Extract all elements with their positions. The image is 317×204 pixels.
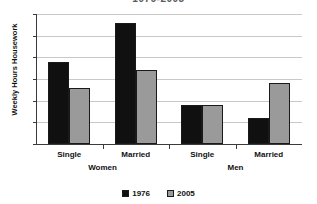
bar bbox=[202, 105, 223, 144]
gridline bbox=[36, 14, 302, 15]
bar-chart: 1976-2005 Weekly Hours Housework 0510152… bbox=[0, 0, 317, 204]
x-axis-separator bbox=[169, 145, 170, 149]
legend-swatch-icon bbox=[122, 190, 129, 197]
legend-label: 1976 bbox=[132, 189, 150, 198]
x-category-label: Single bbox=[167, 150, 237, 159]
x-axis-line bbox=[36, 144, 302, 145]
chart-legend: 19762005 bbox=[0, 189, 317, 198]
x-axis-separator bbox=[236, 145, 237, 149]
legend-swatch-icon bbox=[167, 190, 174, 197]
gridline bbox=[36, 79, 302, 80]
bar bbox=[136, 70, 157, 144]
y-axis-line bbox=[36, 14, 37, 145]
x-category-label: Single bbox=[34, 150, 104, 159]
x-group-label: Women bbox=[58, 163, 148, 172]
chart-title: 1976-2005 bbox=[0, 0, 317, 4]
bar bbox=[115, 23, 136, 144]
legend-item[interactable]: 1976 bbox=[122, 189, 150, 198]
y-axis-title: Weekly Hours Housework bbox=[10, 5, 19, 135]
legend-item[interactable]: 2005 bbox=[167, 189, 195, 198]
plot-area: 051015202530 bbox=[36, 14, 302, 145]
bar bbox=[48, 62, 69, 144]
x-axis-separator bbox=[103, 145, 104, 149]
bar bbox=[69, 88, 90, 144]
x-group-label: Men bbox=[191, 163, 281, 172]
bar bbox=[269, 83, 290, 144]
gridline bbox=[36, 57, 302, 58]
gridline bbox=[36, 36, 302, 37]
x-category-label: Married bbox=[101, 150, 171, 159]
bar bbox=[248, 118, 269, 144]
legend-label: 2005 bbox=[177, 189, 195, 198]
x-category-label: Married bbox=[234, 150, 304, 159]
bar bbox=[181, 105, 202, 144]
